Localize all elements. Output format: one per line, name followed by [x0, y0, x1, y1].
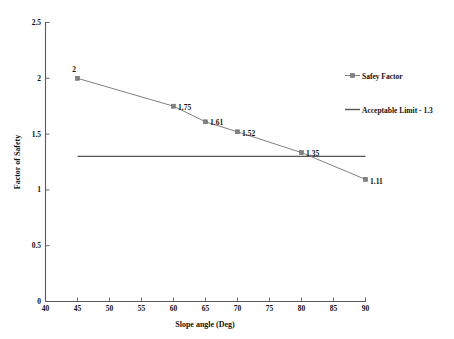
data-point-label: 1.52 — [242, 129, 255, 138]
x-tick-label: 75 — [266, 304, 274, 313]
axes-group — [46, 22, 367, 302]
x-tick-label: 70 — [234, 304, 242, 313]
chart-container: 0 0.5 1 1.5 2 2.5 40 45 50 55 6 — [0, 0, 454, 339]
x-tick-label: 40 — [42, 304, 50, 313]
x-tick-label: 50 — [106, 304, 114, 313]
data-point-marker — [300, 151, 304, 155]
safety-factor-series-line — [78, 78, 366, 179]
data-point-label: 1.61 — [210, 118, 223, 127]
y-tick-label: 0.5 — [32, 241, 42, 250]
x-axis-title: Slope angle (Deg) — [175, 320, 235, 329]
x-tick-label: 90 — [362, 304, 370, 313]
y-tick-label: 1 — [37, 185, 41, 194]
x-tick-marks — [46, 298, 366, 302]
data-point-marker — [172, 104, 176, 108]
y-tick-label: 2.5 — [32, 18, 42, 27]
data-point-label: 1.11 — [370, 177, 383, 186]
data-point-label: 1.75 — [178, 103, 191, 112]
safety-factor-markers — [76, 76, 368, 181]
legend-marker-swatch — [351, 74, 355, 78]
data-point-label: 2 — [72, 65, 76, 74]
x-tick-label: 80 — [298, 304, 306, 313]
data-point-label: 1.35 — [306, 149, 319, 158]
y-axis-title: Factor of Safety — [13, 135, 22, 190]
x-tick-label: 55 — [138, 304, 146, 313]
y-tick-label: 2 — [37, 74, 41, 83]
x-tick-label: 65 — [202, 304, 210, 313]
legend-label: Safey Factor — [362, 72, 403, 81]
y-tick-label: 0 — [37, 297, 41, 306]
y-tick-marks — [46, 23, 50, 302]
y-tick-labels: 0 0.5 1 1.5 2 2.5 — [32, 18, 42, 306]
x-tick-label: 45 — [74, 304, 82, 313]
data-point-marker — [76, 76, 80, 80]
data-point-marker — [236, 130, 240, 134]
data-point-marker — [204, 120, 208, 124]
x-tick-labels: 40 45 50 55 60 65 70 75 80 85 90 — [42, 304, 370, 313]
legend-item-acceptable-limit[interactable]: Acceptable Limit - 1.3 — [345, 106, 433, 115]
chart-legend: Safey Factor Acceptable Limit - 1.3 — [345, 72, 433, 115]
data-point-labels: 2 1.75 1.61 1.52 1.35 1.11 — [72, 65, 383, 186]
x-tick-label: 60 — [170, 304, 178, 313]
y-tick-label: 1.5 — [32, 130, 42, 139]
legend-item-safety-factor[interactable]: Safey Factor — [345, 72, 403, 81]
chart-plot-area: 0 0.5 1 1.5 2 2.5 40 45 50 55 6 — [0, 0, 454, 339]
legend-label: Acceptable Limit - 1.3 — [362, 106, 433, 115]
x-tick-label: 85 — [330, 304, 338, 313]
data-point-marker — [364, 177, 368, 181]
